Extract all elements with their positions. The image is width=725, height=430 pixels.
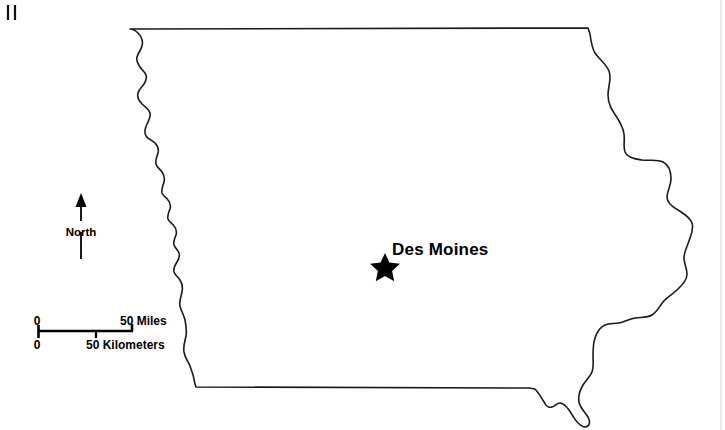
map-canvas: North 0 0 50 Miles 50 Kilometers Des Moi… [0,0,725,430]
scale-miles-label: 50 Miles [120,314,167,328]
iowa-map-graphic: North 0 0 50 Miles 50 Kilometers Des Moi… [0,0,725,430]
scale-bar [38,324,133,338]
scale-kilometers-label: 50 Kilometers [86,338,165,352]
capital-city-label: Des Moines [392,240,488,259]
north-arrow-label: North [66,226,97,238]
scale-origin-label-bottom: 0 [34,338,41,352]
state-outline-iowa [130,28,693,427]
scale-origin-label-top: 0 [34,314,41,328]
crop-mark-group [8,5,15,20]
